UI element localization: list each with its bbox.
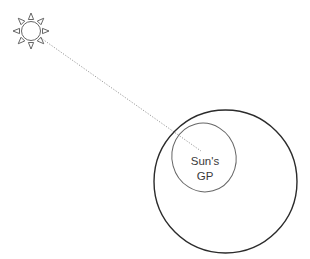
sun-ray-icon xyxy=(28,13,33,20)
sun-ray-icon xyxy=(37,37,43,43)
sun-ray-icon xyxy=(18,37,24,43)
sun-icon xyxy=(13,13,49,49)
sun-gp-diagram: Sun's GP xyxy=(0,0,310,259)
sun-gp-label-line1: Sun's xyxy=(191,155,220,167)
sun-ray-icon xyxy=(13,28,20,33)
sun-ray-icon xyxy=(18,18,24,24)
sun-ray-dotted-line xyxy=(31,31,201,151)
sun-ray-icon xyxy=(28,43,33,50)
sun-ray-icon xyxy=(43,28,50,33)
earth-circle xyxy=(154,110,297,253)
sun-gp-label-line2: GP xyxy=(197,170,214,182)
sun-ray-icon xyxy=(37,18,43,24)
